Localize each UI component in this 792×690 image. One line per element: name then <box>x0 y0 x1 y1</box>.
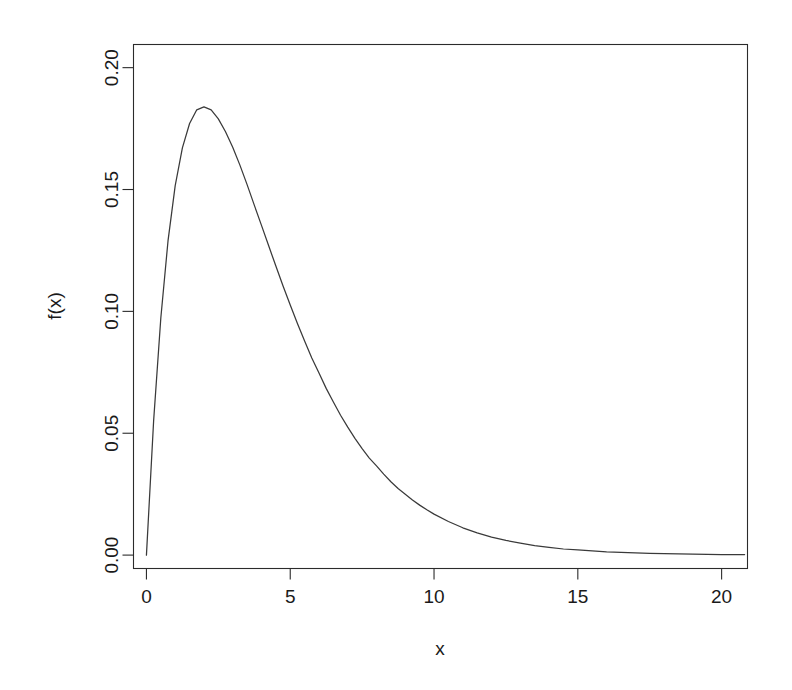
x-tick-label: 20 <box>711 586 732 607</box>
distribution-plot: 05101520 0.000.050.100.150.20 x f(x) <box>0 0 792 690</box>
x-tick-label: 0 <box>141 586 152 607</box>
x-tick-label: 10 <box>423 586 444 607</box>
y-tick-label: 0.10 <box>101 293 122 330</box>
chart-container: 05101520 0.000.050.100.150.20 x f(x) <box>0 0 792 690</box>
y-tick-label: 0.15 <box>101 171 122 208</box>
plot-background <box>0 0 792 690</box>
y-tick-label: 0.00 <box>101 537 122 574</box>
y-tick-label: 0.20 <box>101 49 122 86</box>
x-tick-label: 15 <box>567 586 588 607</box>
y-tick-label: 0.05 <box>101 415 122 452</box>
x-axis-title: x <box>435 638 445 659</box>
x-tick-label: 5 <box>285 586 296 607</box>
y-axis-title: f(x) <box>44 292 65 319</box>
